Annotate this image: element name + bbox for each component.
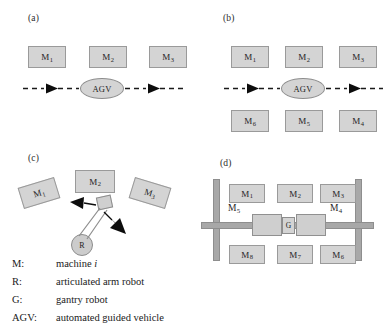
machine-label-d-4: M4 <box>330 203 342 213</box>
machine-index: 5 <box>307 120 310 127</box>
machine-label: M <box>89 177 97 187</box>
machine-box-d-6: M6 <box>320 245 356 264</box>
machine-box-b-6: M6 <box>231 110 269 132</box>
machine-box-d-2: M2 <box>277 184 313 203</box>
machine-box-b-1: M1 <box>231 46 269 68</box>
machine-box-d-1: M1 <box>229 184 265 203</box>
gantry-rail-right <box>355 179 362 261</box>
machine-index: 6 <box>341 253 344 260</box>
machine-label: M <box>332 250 340 260</box>
figure-manufacturing-cell-layouts: (a) M1 M2 M3 AGV (b) M1 M2 M3 AGV M6 M5 … <box>0 0 390 331</box>
legend-row-agv: AGV: automated guided vehicle <box>12 312 312 330</box>
machine-label: M <box>352 52 360 62</box>
machine-index: 3 <box>171 56 174 63</box>
legend-value-machine: machine i <box>56 258 97 269</box>
robot-end-effector-c <box>96 195 113 211</box>
machine-index: 1 <box>253 56 256 63</box>
machine-index: 4 <box>361 120 364 127</box>
machine-index: 2 <box>298 192 301 199</box>
articulated-robot-base-c: R <box>71 234 93 256</box>
legend-key-gantry: G: <box>12 294 56 305</box>
machine-index: 1 <box>50 56 53 63</box>
machine-index: 3 <box>151 192 156 200</box>
machine-label: M <box>352 116 360 126</box>
legend-value-gantry: gantry robot <box>56 294 108 305</box>
machine-index: 3 <box>341 192 344 199</box>
legend-key-agv: AGV: <box>12 312 56 323</box>
machine-box-b-3: M3 <box>339 46 377 68</box>
arrowhead-upleft-c <box>70 197 84 209</box>
arm-link-inner <box>87 210 107 239</box>
machine-box-a-2: M2 <box>89 46 127 68</box>
motion-line-downright <box>104 212 112 220</box>
machine-box-b-4: M4 <box>339 110 377 132</box>
legend-key-machine: M: <box>12 258 56 269</box>
machine-box-c-2: M2 <box>75 170 115 193</box>
gantry-carriage-right <box>296 214 326 236</box>
arrowhead-left-a <box>46 84 58 94</box>
arrowhead-right-b <box>349 84 361 94</box>
machine-label: M <box>41 52 49 62</box>
arrowhead-downright-fill-c <box>110 218 126 234</box>
legend-key-robot: R: <box>12 276 56 287</box>
machine-label: M <box>241 189 249 199</box>
legend-value-robot: articulated arm robot <box>56 276 144 287</box>
machine-label: M <box>332 189 340 199</box>
gantry-rail-left <box>213 179 220 261</box>
legend-row-robot: R: articulated arm robot <box>12 276 312 294</box>
motion-line-upleft <box>84 203 96 205</box>
gantry-carriage-left <box>252 214 282 236</box>
machine-box-c-1: M1 <box>18 177 61 209</box>
arrowhead-downright-c <box>109 217 126 234</box>
machine-box-d-3: M3 <box>320 184 356 203</box>
panel-label-d: (d) <box>220 158 232 168</box>
arm-link-outer <box>79 208 100 236</box>
machine-index: 2 <box>111 56 114 63</box>
legend-row-machine: M: machine i <box>12 258 312 276</box>
panel-label-b: (b) <box>223 13 235 23</box>
panel-label-c: (c) <box>28 153 39 163</box>
machine-index: 2 <box>98 180 101 187</box>
machine-box-b-5: M5 <box>285 110 323 132</box>
machine-index: 1 <box>41 190 46 198</box>
agv-vehicle-b: AGV <box>281 78 325 99</box>
machine-box-c-3: M3 <box>129 177 172 209</box>
legend-value-agv: automated guided vehicle <box>56 312 164 323</box>
arrowhead-right-a <box>148 84 160 94</box>
agv-vehicle-a: AGV <box>80 78 124 99</box>
figure-legend: M: machine i R: articulated arm robot G:… <box>12 258 312 330</box>
machine-index: 3 <box>361 56 364 63</box>
machine-label: M <box>289 189 297 199</box>
arrowhead-left-b <box>247 84 259 94</box>
machine-box-a-3: M3 <box>149 46 187 68</box>
machine-box-b-2: M2 <box>285 46 323 68</box>
machine-label: M <box>244 52 252 62</box>
gantry-robot-g: G <box>282 217 295 234</box>
machine-label: M <box>298 116 306 126</box>
machine-label-d-5: M5 <box>228 203 240 213</box>
machine-index: 2 <box>307 56 310 63</box>
panel-label-a: (a) <box>28 13 39 23</box>
legend-row-gantry: G: gantry robot <box>12 294 312 312</box>
machine-label: M <box>102 52 110 62</box>
machine-label: M <box>162 52 170 62</box>
machine-label: M <box>298 52 306 62</box>
machine-index: 1 <box>250 192 253 199</box>
machine-index: 6 <box>253 120 256 127</box>
machine-label: M <box>244 116 252 126</box>
machine-box-a-1: M1 <box>28 46 66 68</box>
